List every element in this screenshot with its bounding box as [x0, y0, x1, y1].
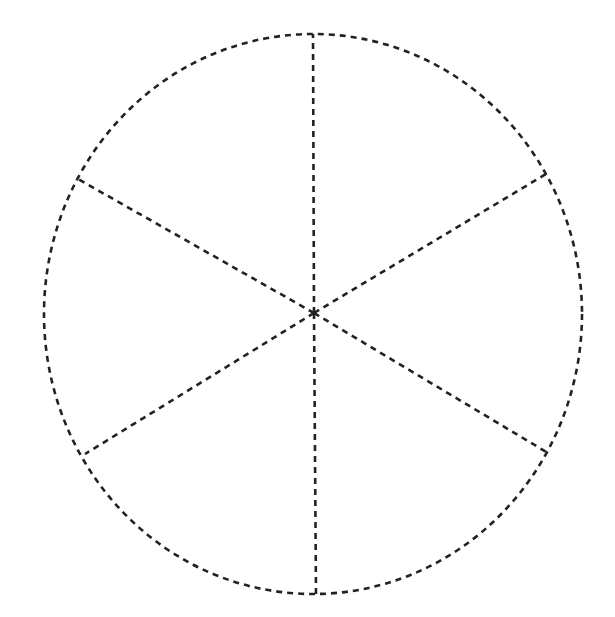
spoke-lower-right [314, 313, 548, 453]
radial-spokes [78, 34, 548, 594]
spoke-upper-left [78, 179, 314, 313]
sector-diagram [0, 0, 615, 617]
spoke-upper-right [314, 174, 546, 313]
spoke-lower-left [85, 313, 314, 454]
spoke-bottom [314, 313, 316, 594]
spoke-top [313, 34, 314, 313]
